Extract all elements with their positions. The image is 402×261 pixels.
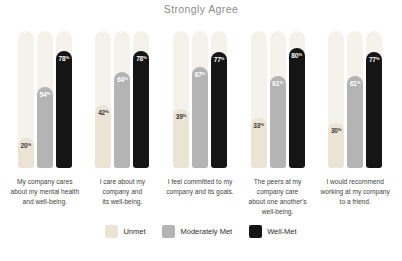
bar-unmet: 33% <box>251 118 267 168</box>
bar-value-label: 78% <box>133 55 149 62</box>
bar-value-label: 61% <box>347 80 363 87</box>
bar-moderately-met: 67% <box>192 67 208 168</box>
bar-value-label: 77% <box>211 56 227 63</box>
category-label: The peers at my company care about one a… <box>249 177 307 217</box>
bar-moderately-met: 61% <box>347 76 363 168</box>
bar-value-label: 54% <box>37 91 53 98</box>
bar-value-label: 39% <box>173 113 189 120</box>
bar-track: 80% <box>289 31 305 168</box>
chart-title: Strongly Agree <box>0 0 402 15</box>
bar-track: 61% <box>347 31 363 168</box>
chart-legend: UnmetModerately MetWell-Met <box>0 225 402 238</box>
bar-value-label: 61% <box>270 80 286 87</box>
chart-group: 33%61%80%The peers at my company care ab… <box>239 31 317 217</box>
bar-track: 77% <box>211 31 227 168</box>
bar-track: 54% <box>37 31 53 168</box>
bar-group: 39%67%77% <box>173 31 227 168</box>
bar-value-label: 78% <box>56 55 72 62</box>
chart-group: 30%61%77%I would recommend working at my… <box>316 31 394 217</box>
bar-group: 33%61%80% <box>251 31 305 168</box>
bar-track: 42% <box>95 31 111 168</box>
bar-value-label: 33% <box>251 122 267 129</box>
bar-track: 64% <box>114 31 130 168</box>
legend-item-well-met: Well-Met <box>249 225 296 238</box>
legend-swatch-well-met <box>249 225 262 238</box>
bar-chart: 20%54%78%My company cares about my menta… <box>0 15 402 217</box>
bar-value-label: 80% <box>289 52 305 59</box>
bar-well-met: 78% <box>133 51 149 168</box>
bar-moderately-met: 61% <box>270 76 286 168</box>
category-label: I care about my company and its well-bei… <box>100 177 145 207</box>
bar-value-label: 67% <box>192 71 208 78</box>
bar-well-met: 77% <box>211 52 227 168</box>
bar-group: 30%61%77% <box>328 31 382 168</box>
legend-swatch-moderately-met <box>162 225 175 238</box>
category-label: I feel committed to my company and its g… <box>166 177 233 197</box>
category-label: I would recommend working at my company … <box>321 177 390 207</box>
bar-value-label: 42% <box>95 109 111 116</box>
bar-value-label: 20% <box>18 142 34 149</box>
bar-well-met: 77% <box>366 52 382 168</box>
legend-item-moderately-met: Moderately Met <box>162 225 232 238</box>
bar-well-met: 78% <box>56 51 72 168</box>
bar-group: 20%54%78% <box>18 31 72 168</box>
legend-item-unmet: Unmet <box>105 225 145 238</box>
legend-label: Unmet <box>123 227 145 236</box>
bar-track: 67% <box>192 31 208 168</box>
bar-moderately-met: 54% <box>37 87 53 168</box>
bar-track: 78% <box>56 31 72 168</box>
bar-value-label: 30% <box>328 127 344 134</box>
bar-track: 61% <box>270 31 286 168</box>
bar-moderately-met: 64% <box>114 72 130 168</box>
legend-label: Well-Met <box>267 227 296 236</box>
bar-value-label: 64% <box>114 76 130 83</box>
chart-group: 20%54%78%My company cares about my menta… <box>6 31 84 217</box>
chart-group: 39%67%77%I feel committed to my company … <box>161 31 239 217</box>
bar-track: 78% <box>133 31 149 168</box>
bar-value-label: 77% <box>366 56 382 63</box>
bar-unmet: 20% <box>18 138 34 168</box>
legend-swatch-unmet <box>105 225 118 238</box>
chart-group: 42%64%78%I care about my company and its… <box>84 31 162 217</box>
bar-unmet: 30% <box>328 123 344 168</box>
bar-track: 30% <box>328 31 344 168</box>
bar-track: 77% <box>366 31 382 168</box>
bar-track: 20% <box>18 31 34 168</box>
bar-group: 42%64%78% <box>95 31 149 168</box>
bar-track: 39% <box>173 31 189 168</box>
bar-track: 33% <box>251 31 267 168</box>
bar-unmet: 42% <box>95 105 111 168</box>
legend-label: Moderately Met <box>180 227 232 236</box>
bar-unmet: 39% <box>173 109 189 168</box>
category-label: My company cares about my mental health … <box>11 177 80 207</box>
bar-well-met: 80% <box>289 48 305 168</box>
